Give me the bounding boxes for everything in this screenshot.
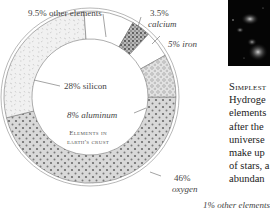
caption-line-5: universe xyxy=(229,133,270,146)
starfield-photo xyxy=(228,0,270,66)
caption-line-8: abundan xyxy=(229,172,270,185)
caption-line-2: Hydroge xyxy=(229,93,270,106)
label-oxygen-name: oxygen xyxy=(172,184,197,194)
label-iron: 5% iron xyxy=(168,39,197,49)
donut-center-title: Elements in earth's crust xyxy=(58,129,118,147)
caption-line-6: make up xyxy=(229,146,270,159)
nebula-image xyxy=(228,0,270,66)
caption-line-1: Simplest xyxy=(229,80,270,93)
label-oxygen-percent: 46% xyxy=(174,173,191,183)
side-caption: Simplest Hydroge elements after the univ… xyxy=(229,80,270,186)
label-aluminum: 8% aluminum xyxy=(67,110,117,120)
caption-line-4: after the xyxy=(229,120,270,133)
label-other-elements: 9.5% other elements xyxy=(28,8,102,18)
segment-silicon xyxy=(4,11,86,118)
caption-line-3: elements xyxy=(229,106,270,119)
label-one-percent-other: 1% other elements xyxy=(203,200,270,208)
label-calcium-percent: 3.5% xyxy=(150,8,169,18)
caption-line-7: of stars, a xyxy=(229,159,270,172)
label-silicon: 28% silicon xyxy=(64,81,107,91)
center-title-line2: earth's crust xyxy=(58,138,118,147)
label-calcium-name: calcium xyxy=(148,19,177,29)
center-title-line1: Elements in xyxy=(58,129,118,138)
